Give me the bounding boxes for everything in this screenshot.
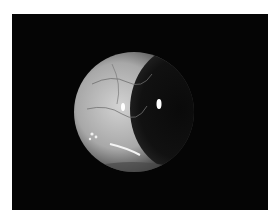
eye-photo	[12, 14, 268, 210]
photo-frame	[12, 14, 268, 210]
reflection	[121, 103, 125, 111]
lower-lid	[84, 162, 180, 186]
pupil-reflection	[157, 99, 162, 109]
